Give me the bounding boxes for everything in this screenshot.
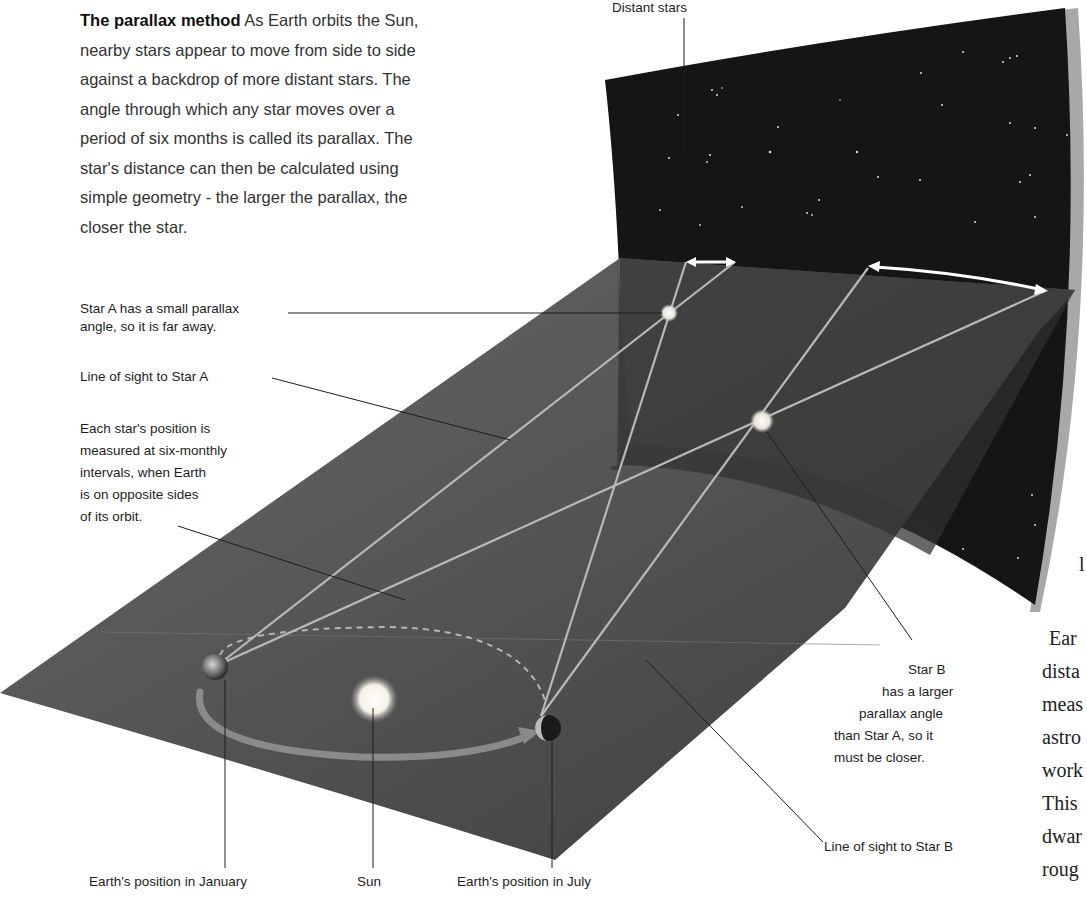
label-earth-january: Earth's position in January — [89, 873, 247, 891]
label-star-b-3: parallax angle — [859, 705, 943, 723]
label-distant-stars: Distant stars — [612, 0, 687, 17]
star-b — [750, 409, 774, 433]
cropped-text-line-4: astro — [1042, 726, 1081, 749]
label-measured-4: is on opposite sides — [80, 486, 199, 504]
label-star-b-5: must be closer. — [834, 749, 925, 767]
cropped-text-line-2: dista — [1042, 660, 1080, 683]
label-measured-2: measured at six-monthly — [80, 442, 227, 460]
orbit-plane — [0, 258, 1075, 860]
label-star-b-4: than Star A, so it — [834, 727, 933, 745]
star-a — [660, 304, 678, 322]
label-measured-1: Each star's position is — [80, 420, 210, 438]
label-line-of-sight-b: Line of sight to Star B — [824, 838, 953, 856]
label-star-a-1: Star A has a small parallax — [80, 300, 239, 318]
label-star-a-2: angle, so it is far away. — [80, 318, 216, 336]
cropped-text-line-8: roug — [1042, 858, 1079, 881]
label-measured-3: intervals, when Earth — [80, 464, 206, 482]
cropped-text-line-1: Ear — [1049, 627, 1077, 650]
earth-january — [202, 654, 228, 680]
cropped-text-l: l — [1079, 553, 1085, 576]
cropped-text-line-6: This — [1042, 792, 1078, 815]
cropped-text-line-7: dwar — [1042, 825, 1082, 848]
label-earth-july: Earth's position in July — [457, 873, 591, 891]
cropped-text-line-5: work — [1042, 759, 1083, 782]
label-star-b-1: Star B — [908, 661, 946, 679]
label-star-b-2: has a larger — [882, 683, 953, 701]
intro-paragraph: The parallax method As Earth orbits the … — [80, 6, 425, 242]
intro-title: The parallax method — [80, 11, 240, 29]
sun — [350, 675, 398, 723]
intro-body: As Earth orbits the Sun, nearby stars ap… — [80, 11, 418, 236]
label-measured-5: of its orbit. — [80, 508, 142, 526]
label-sun: Sun — [357, 873, 381, 891]
cropped-text-line-3: meas — [1042, 693, 1083, 716]
label-line-of-sight-a: Line of sight to Star A — [80, 368, 208, 386]
